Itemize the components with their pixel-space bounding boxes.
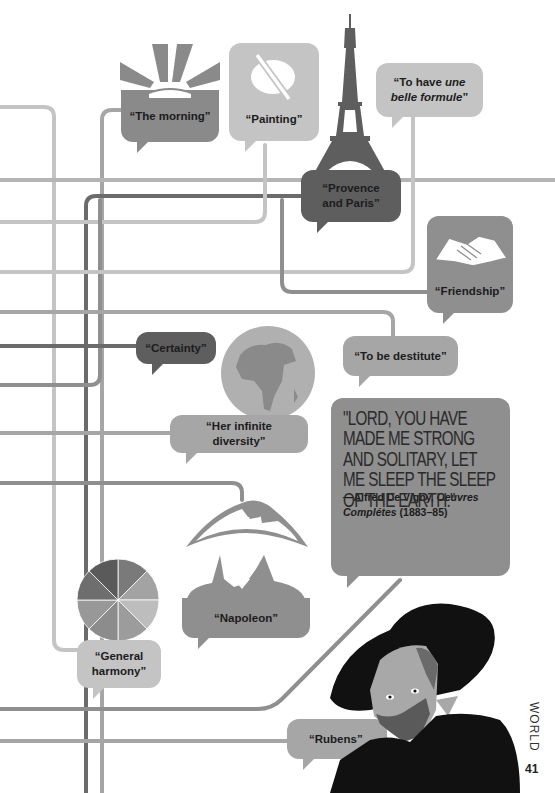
bubble-label: “Generalharmony” xyxy=(92,649,146,679)
bubble-label: “To be destitute” xyxy=(354,349,446,364)
bubble-label: “Provenceand Paris” xyxy=(322,181,380,211)
bubble-provence-and-paris: “Provenceand Paris” xyxy=(301,170,401,222)
rubens-portrait-icon xyxy=(330,590,530,793)
handshake-icon xyxy=(427,216,513,280)
bubble-label: “Napoleon” xyxy=(214,611,278,626)
bubble-belle-formule: “To have unebelle formule” xyxy=(376,63,483,117)
palette-brush-icon xyxy=(247,53,299,103)
bubble-to-be-destitute: “To be destitute” xyxy=(343,336,458,376)
bubble-label: “Friendship” xyxy=(435,284,505,299)
bubble-certainty: “Certainty” xyxy=(136,332,216,364)
globe-icon xyxy=(220,325,316,421)
bubble-her-infinite-diversity: “Her infinite diversity” xyxy=(170,415,308,453)
bubble-label: “To have unebelle formule” xyxy=(391,75,468,105)
bubble-general-harmony: “Generalharmony” xyxy=(77,640,161,688)
bubble-label: “Her infinite diversity” xyxy=(178,419,300,449)
bubble-friendship: “Friendship” xyxy=(427,216,513,313)
quote-box: "LORD, YOU HAVE MADE ME STRONG AND SOLIT… xyxy=(331,398,510,576)
color-wheel-icon xyxy=(76,558,160,642)
bubble-label: “The morning” xyxy=(129,109,210,124)
quote-text: "LORD, YOU HAVE MADE ME STRONG AND SOLIT… xyxy=(343,408,499,510)
section-label: WORLD xyxy=(527,702,541,752)
page-number: 41 xyxy=(525,762,538,776)
bubble-napoleon: “Napoleon” xyxy=(182,598,310,638)
bubble-label: “Painting” xyxy=(246,112,303,127)
sun-dome xyxy=(122,86,218,98)
bubble-label: “Certainty” xyxy=(145,341,206,356)
